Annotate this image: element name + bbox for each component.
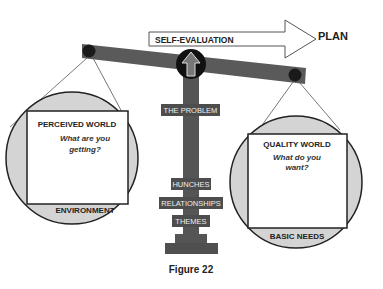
svg-text:THE PROBLEM: THE PROBLEM <box>164 106 218 115</box>
beam-right-dot <box>289 69 302 82</box>
self-evaluation-arrow: SELF-EVALUATION <box>149 20 316 58</box>
quality-world-question-2: want? <box>285 163 308 172</box>
environment-label: ENVIRONMENT <box>55 206 114 215</box>
svg-text:RELATIONSHIPS: RELATIONSHIPS <box>161 199 220 208</box>
quality-world-title: QUALITY WORLD <box>263 140 331 149</box>
scale-base-upper <box>175 234 207 244</box>
plan-label: PLAN <box>318 30 348 42</box>
right-pan: QUALITY WORLD What do you want? BASIC NE… <box>230 116 362 248</box>
basic-needs-label: BASIC NEEDS <box>270 232 325 241</box>
tag-themes: THEMES <box>172 215 210 227</box>
svg-text:HUNCHES: HUNCHES <box>172 180 209 189</box>
svg-text:THEMES: THEMES <box>175 217 206 226</box>
perceived-world-question-1: What are you <box>60 134 110 143</box>
tag-relationships: RELATIONSHIPS <box>159 197 223 209</box>
left-pan: PERCEIVED WORLD What are you getting? EN… <box>6 92 138 224</box>
perceived-world-question-2: getting? <box>68 145 101 154</box>
perceived-world-title: PERCEIVED WORLD <box>38 120 117 129</box>
arrow-label: SELF-EVALUATION <box>155 35 234 45</box>
tag-the-problem: THE PROBLEM <box>161 104 220 116</box>
scale-base-lower <box>165 243 218 254</box>
quality-world-question-1: What do you <box>273 153 321 162</box>
tag-hunches: HUNCHES <box>171 178 211 190</box>
figure-caption: Figure 22 <box>169 264 214 275</box>
balance-scale-diagram: SELF-EVALUATION PLAN PERCEIVED WORLD Wha… <box>0 0 383 289</box>
beam-left-dot <box>83 45 96 58</box>
